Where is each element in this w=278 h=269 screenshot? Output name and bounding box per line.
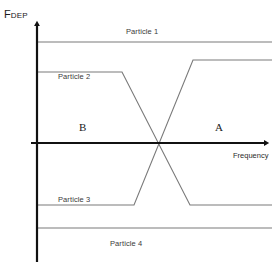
- y-axis-label-main: F: [4, 8, 11, 20]
- chart-canvas: [0, 0, 278, 269]
- x-axis-label: Frequency: [233, 152, 268, 160]
- dep-spectrum-figure: FDEP Frequency B A Particle 1 Particle 2…: [0, 0, 278, 269]
- particle-3-label: Particle 3: [58, 196, 90, 204]
- region-label-b: B: [79, 122, 86, 133]
- particle-1-label: Particle 1: [126, 28, 158, 36]
- y-axis-label: FDEP: [4, 9, 28, 20]
- y-axis-label-subscript: DEP: [11, 11, 28, 20]
- particle-2-label: Particle 2: [58, 73, 90, 81]
- region-label-a: A: [215, 122, 223, 133]
- series-line-particle-2: [37, 72, 272, 205]
- particle-4-label: Particle 4: [110, 240, 142, 248]
- series-line-particle-3: [37, 60, 272, 205]
